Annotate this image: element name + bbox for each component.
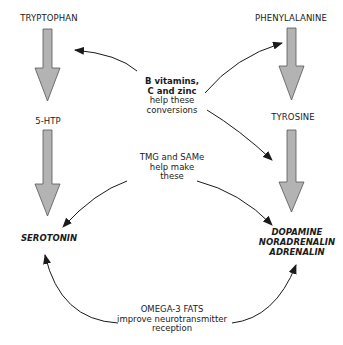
label-dopamine: DOPAMINE (257, 227, 337, 237)
curved-arrow-omega-to-serotonin (45, 255, 118, 323)
curved-arrow-tmg-to-serotonin (63, 181, 127, 227)
note-omega: OMEGA-3 FATS improve neurotransmitter re… (112, 305, 232, 334)
curved-arrow-to-tryptophan-conversion (75, 50, 137, 71)
label-noradrenalin: NORADRENALIN (257, 237, 337, 247)
label-5-htp: 5-HTP (22, 116, 74, 126)
note-omega-line-3: reception (112, 324, 232, 334)
note-methylation: TMG and SAMe help make these (122, 153, 222, 182)
block-arrow-tyrosine-to-dopamine (279, 130, 304, 212)
label-phenylalanine: PHENYLALANINE (252, 13, 330, 23)
label-tyrosine: TYROSINE (265, 112, 321, 122)
label-catecholamines: DOPAMINE NORADRENALIN ADRENALIN (257, 227, 337, 257)
block-arrow-tryptophan-to-5htp (35, 29, 60, 101)
note-methylation-line-3: these (122, 172, 222, 182)
block-arrow-phenylalanine-to-tyrosine (279, 28, 304, 100)
label-serotonin: SEROTONIN (14, 233, 84, 243)
label-adrenalin: ADRENALIN (257, 247, 337, 257)
curved-arrow-to-phenylalanine-conversion (205, 43, 282, 93)
curved-arrow-omega-to-dopamine (232, 265, 296, 323)
curved-arrow-tmg-to-dopamine (197, 181, 272, 225)
label-tryptophan: TRYPTOPHAN (15, 13, 83, 23)
block-arrow-5htp-to-serotonin (35, 130, 60, 216)
note-cofactors-line-4: conversions (132, 106, 212, 116)
note-cofactors: B vitamins, C and zinc help these conver… (132, 77, 212, 115)
